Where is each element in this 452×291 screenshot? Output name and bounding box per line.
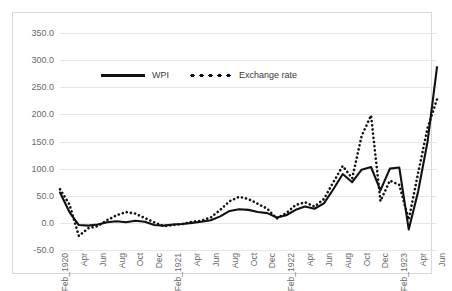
- chart-container: WPI Exchange rate -50.00.050.0100.0150.0…: [12, 12, 432, 274]
- x-axis-tick-label: Oct: [362, 253, 372, 266]
- x-axis-tick-label: Apr: [305, 253, 315, 266]
- y-axis-tick-label: 200.0: [31, 109, 54, 119]
- x-axis-tick-label: Dec: [267, 253, 277, 268]
- x-axis-tick-label: Jun: [98, 253, 108, 267]
- x-axis-tick-label: Jun: [324, 253, 334, 267]
- y-axis-tick-label: 250.0: [31, 82, 54, 92]
- x-axis-tick-label: Dec: [380, 253, 390, 268]
- x-axis-tick-label: Aug: [343, 253, 353, 268]
- x-axis-tick-label: Apr: [418, 253, 428, 266]
- y-axis-tick-label: 350.0: [31, 28, 54, 38]
- y-axis-tick-label: -50.0: [33, 245, 54, 255]
- plot-area: -50.00.050.0100.0150.0200.0250.0300.0350…: [60, 33, 437, 250]
- series-line-exchange-rate: [60, 99, 437, 236]
- x-axis-tick-label: Feb_1920: [60, 253, 70, 291]
- y-axis-tick-label: 300.0: [31, 55, 54, 65]
- x-axis-tick-label: Jun: [437, 253, 447, 267]
- y-axis-tick-label: 50.0: [36, 191, 54, 201]
- x-axis-tick-label: Feb_1921: [173, 253, 183, 291]
- x-axis-tick-label: Jun: [211, 253, 221, 267]
- y-axis-tick-label: 0.0: [41, 218, 54, 228]
- x-axis-tick-label: Aug: [230, 253, 240, 268]
- x-axis-tick-label: Aug: [117, 253, 127, 268]
- x-axis-tick-label: Oct: [135, 253, 145, 266]
- x-axis-tick-label: Oct: [249, 253, 259, 266]
- y-axis-tick-label: 100.0: [31, 164, 54, 174]
- x-axis-tick-label: Feb_1922: [286, 253, 296, 291]
- x-axis-tick-label: Feb_1923: [399, 253, 409, 291]
- x-axis-tick-label: Apr: [79, 253, 89, 266]
- chart-lines: [60, 33, 437, 250]
- gridline: [60, 250, 437, 251]
- x-axis-tick-label: Dec: [154, 253, 164, 268]
- series-line-wpi: [60, 67, 437, 229]
- x-axis-tick-label: Apr: [192, 253, 202, 266]
- y-axis-tick-label: 150.0: [31, 137, 54, 147]
